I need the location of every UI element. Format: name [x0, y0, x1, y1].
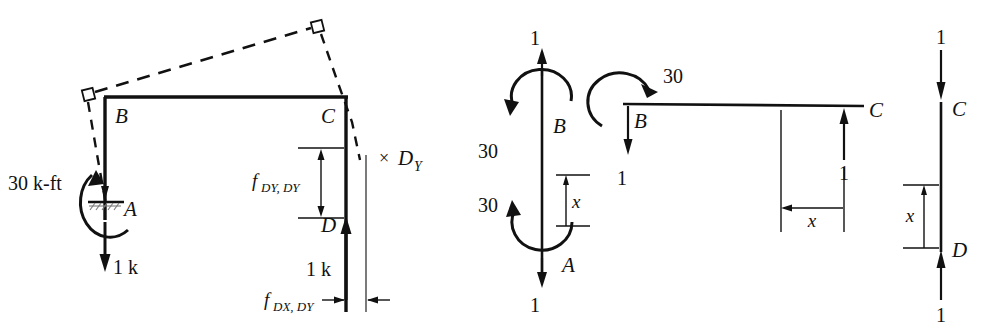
fbd-ab-node-label-a: A [560, 253, 575, 277]
fbd-cd-bottom-force-head [937, 250, 946, 268]
dim-arrowhead-dx-left [367, 297, 378, 304]
node-label-b: B [115, 104, 128, 128]
node-label-a: A [122, 197, 137, 221]
fbd-cd-bottom-force-label: 1 [936, 304, 946, 326]
fbd-ab-dim-label: x [571, 191, 581, 212]
redundant-multiplier-label: × D Y [379, 146, 424, 174]
column-ab-axial-head [101, 186, 109, 200]
fbd-bc-moment-label: 30 [663, 65, 683, 87]
free-body-column-AB: 1 1 30 30 B A x [478, 27, 590, 316]
free-body-beam-BC: 30 1 1 B C x [588, 65, 884, 232]
fbd-ab-bottom-moment-label: 30 [478, 194, 498, 216]
flexibility-dy-dy-sub: DY, DY [260, 180, 301, 195]
load-arrow-a-head [100, 254, 111, 272]
fbd-ab-bottom-force-head [537, 272, 547, 288]
flexibility-dy-dy-main: f [252, 170, 260, 191]
right-angle-marker-b-deflected [82, 88, 95, 101]
load-label-d: 1 k [306, 258, 331, 280]
fbd-cd-dim-label: x [905, 205, 915, 226]
load-label-a: 1 k [113, 256, 138, 278]
fbd-cd-dim-arrowhead [921, 185, 927, 195]
fbd-cd-top-force-label: 1 [936, 26, 946, 48]
free-body-column-CD: 1 1 C D x [903, 26, 967, 326]
fbd-ab-node-label-b: B [553, 114, 566, 138]
fbd-ab-bottom-moment-head [506, 200, 521, 217]
fbd-cd-top-force-head [937, 82, 946, 100]
fbd-ab-bottom-force-label: 1 [530, 294, 540, 316]
fbd-bc-dim-label: x [807, 210, 817, 231]
flexibility-dx-dy-sub: DX, DY [272, 299, 315, 314]
fbd-bc-right-shear-head [840, 108, 849, 124]
fbd-ab-top-force-label: 1 [530, 27, 540, 49]
node-label-c: C [321, 104, 336, 128]
fbd-ab-top-force-head [537, 48, 547, 64]
fbd-bc-node-label-c: C [869, 98, 884, 122]
fbd-bc-left-shear-head [624, 139, 633, 155]
node-label-d: D [320, 213, 336, 237]
deflected-frame-diagram: B C A D 1 k 30 k-ft [8, 20, 424, 314]
fbd-bc-dim-arrowhead [781, 205, 792, 212]
flexibility-label-dx-dy: f DX, DY [264, 289, 315, 314]
flexibility-dx-dy-main: f [264, 289, 272, 310]
redundant-main: D [397, 146, 413, 170]
fbd-ab-top-moment-label: 30 [478, 140, 498, 162]
fbd-cd-node-label-c: C [952, 97, 967, 121]
dim-arrowhead-dx-right [334, 297, 345, 304]
moment-label-a: 30 k-ft [8, 172, 62, 194]
dim-arrowhead-dy-up [318, 149, 325, 160]
fbd-ab-dim-arrowhead [563, 175, 569, 185]
deflected-beam-dashed [95, 28, 311, 92]
fbd-bc-node-label-b: B [634, 109, 647, 133]
figure-root: B C A D 1 k 30 k-ft [0, 0, 982, 328]
right-angle-marker-c-deflected [311, 20, 324, 33]
fbd-bc-member [623, 104, 864, 106]
fbd-cd-node-label-d: D [951, 238, 967, 262]
multiplication-icon: × [379, 148, 389, 168]
fbd-bc-moment-head [641, 84, 658, 98]
fbd-bc-left-shear-label: 1 [617, 167, 627, 189]
flexibility-label-dy-dy: f DY, DY [252, 170, 301, 195]
engineering-diagram-canvas: B C A D 1 k 30 k-ft [0, 0, 982, 328]
fbd-ab-top-moment-head [504, 99, 519, 116]
redundant-sub: Y [414, 159, 424, 174]
